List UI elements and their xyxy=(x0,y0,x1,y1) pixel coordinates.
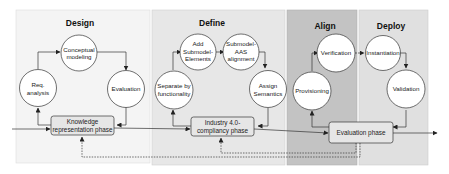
node-label: analysis xyxy=(27,89,49,96)
node-verification: Verification xyxy=(317,34,355,72)
node-label: Add xyxy=(192,40,204,47)
define-title: Define xyxy=(199,18,225,28)
node-add-submodel-elements: Add Submodel- Elements xyxy=(180,34,216,70)
node-label: AAS xyxy=(235,48,247,55)
design-title: Design xyxy=(66,18,94,28)
phase-label: Evaluation phase xyxy=(336,129,385,137)
node-label: Submodel- xyxy=(226,40,256,47)
evaluation-phase-box: Evaluation phase xyxy=(329,122,393,143)
node-label: modeling xyxy=(66,53,92,60)
node-label: Evaluation xyxy=(112,85,141,92)
phase-label: compliancy phase xyxy=(197,127,249,135)
node-label: Provisioning xyxy=(295,87,329,94)
industry-compliancy-phase-box: Industry 4.0- compliancy phase xyxy=(191,117,254,136)
node-provisioning: Provisioning xyxy=(293,72,331,110)
knowledge-representation-phase-box: Knowledge representation phase xyxy=(51,116,114,135)
node-label: alignment xyxy=(228,55,255,62)
node-submodel-aas-alignment: Submodel- AAS alignment xyxy=(223,34,259,70)
node-label: Separate by xyxy=(157,82,191,89)
node-assign-semantics: Assign Semantics xyxy=(250,71,287,108)
node-label: Semantics xyxy=(254,90,283,97)
node-label: Instantiation xyxy=(366,49,400,56)
node-label: Assign xyxy=(259,82,278,89)
node-req-analysis: Req. analysis xyxy=(20,70,57,107)
process-diagram: Design Define Align Deploy Conceptual mo… xyxy=(0,0,449,174)
node-separate-by-functionality: Separate by functionality xyxy=(155,71,193,109)
node-instantiation: Instantiation xyxy=(366,36,401,71)
node-label: functionality xyxy=(158,90,192,97)
phase-label: representation phase xyxy=(52,126,112,134)
node-label: Elements xyxy=(185,55,211,62)
node-label: Validation xyxy=(393,85,420,92)
node-label: Submodel- xyxy=(183,48,213,55)
node-validation: Validation xyxy=(387,70,425,108)
deploy-title: Deploy xyxy=(377,21,406,31)
node-label: Req. xyxy=(31,81,44,88)
align-title: Align xyxy=(314,21,335,31)
node-label: Verification xyxy=(321,49,352,56)
node-label: Conceptual xyxy=(63,46,94,53)
node-evaluation: Evaluation xyxy=(108,71,145,108)
node-conceptual-modeling: Conceptual modeling xyxy=(61,35,97,71)
